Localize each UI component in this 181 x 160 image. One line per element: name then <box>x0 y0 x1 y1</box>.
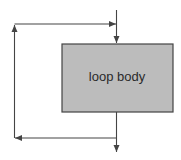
loop-diagram: loop body <box>0 0 181 160</box>
diagram-svg: loop body <box>0 0 181 160</box>
loop-body-label: loop body <box>89 69 146 84</box>
